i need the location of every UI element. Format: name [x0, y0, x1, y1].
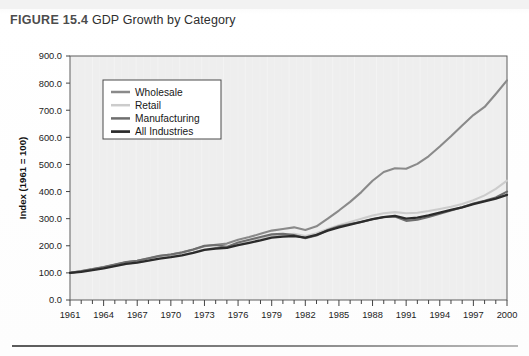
y-tick-label: 0.0 — [49, 295, 62, 305]
x-tick-label: 2000 — [497, 310, 518, 320]
x-tick-label: 1997 — [463, 310, 484, 320]
y-axis-title: Index (1961 = 100) — [17, 137, 28, 219]
legend-label-manufacturing: Manufacturing — [135, 113, 200, 124]
y-tick-label: 300.0 — [39, 214, 62, 224]
y-tick-label: 100.0 — [39, 268, 62, 278]
figure-container: FIGURE 15.4 GDP Growth by Category 0.010… — [0, 0, 529, 356]
y-tick-label: 900.0 — [39, 51, 62, 61]
figure-caption: FIGURE 15.4 GDP Growth by Category — [10, 13, 236, 27]
figure-title: GDP Growth by Category — [92, 13, 236, 27]
x-tick-label: 1970 — [161, 310, 182, 320]
x-tick-label: 1991 — [396, 310, 417, 320]
y-tick-label: 400.0 — [39, 187, 62, 197]
x-tick-label: 1976 — [228, 310, 249, 320]
legend-label-all-industries: All Industries — [135, 126, 193, 137]
x-tick-label: 1979 — [261, 310, 282, 320]
chart-plot: 0.0100.0200.0300.0400.0500.0600.0700.080… — [0, 36, 529, 336]
legend-label-wholesale: Wholesale — [135, 87, 183, 98]
y-tick-label: 200.0 — [39, 241, 62, 251]
legend-label-retail: Retail — [135, 100, 161, 111]
bottom-divider — [12, 345, 518, 347]
y-tick-label: 600.0 — [39, 133, 62, 143]
y-tick-label: 500.0 — [39, 160, 62, 170]
x-tick-label: 1964 — [93, 310, 114, 320]
y-tick-label: 800.0 — [39, 79, 62, 89]
figure-number: FIGURE 15.4 — [10, 13, 88, 27]
top-divider — [0, 0, 529, 9]
x-tick-label: 1973 — [194, 310, 215, 320]
x-tick-label: 1994 — [429, 310, 450, 320]
x-tick-label: 1961 — [60, 310, 81, 320]
x-tick-label: 1985 — [329, 310, 350, 320]
y-tick-label: 700.0 — [39, 106, 62, 116]
x-tick-label: 1982 — [295, 310, 316, 320]
x-tick-label: 1967 — [127, 310, 148, 320]
line-chart: 0.0100.0200.0300.0400.0500.0600.0700.080… — [0, 36, 529, 336]
x-tick-label: 1988 — [362, 310, 383, 320]
